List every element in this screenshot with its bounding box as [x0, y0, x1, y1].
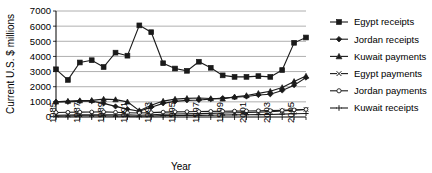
square-marker	[185, 68, 190, 73]
square-marker	[268, 74, 273, 79]
square-marker	[280, 68, 285, 73]
square-marker	[196, 59, 201, 64]
square-marker	[173, 66, 178, 71]
square-marker	[304, 35, 309, 40]
square-marker	[66, 78, 71, 83]
y-tick-label: 6000	[30, 21, 51, 32]
square-marker	[89, 58, 94, 63]
y-tick-label: 5000	[30, 36, 51, 47]
square-marker	[292, 40, 297, 45]
square-marker	[77, 60, 82, 65]
legend-label: Kuwait payments	[354, 51, 427, 62]
square-marker	[54, 67, 59, 72]
square-marker	[101, 65, 106, 70]
square-marker	[113, 50, 118, 55]
square-marker	[208, 65, 213, 70]
y-tick-label: 4000	[30, 51, 51, 62]
square-marker	[137, 23, 142, 28]
square-marker	[125, 53, 130, 58]
square-marker	[232, 74, 237, 79]
y-tick-label: 3000	[30, 66, 51, 77]
square-marker	[256, 74, 261, 79]
square-marker	[337, 20, 342, 25]
y-tick-label: 2000	[30, 81, 51, 92]
square-marker	[244, 74, 249, 79]
legend-label: Egypt payments	[354, 68, 422, 79]
legend-label: Egypt receipts	[354, 16, 414, 27]
x-axis-title: Year	[171, 161, 192, 172]
legend-label: Jordan receipts	[354, 34, 419, 45]
square-marker	[220, 73, 225, 78]
circle-marker	[102, 110, 106, 114]
circle-marker	[292, 108, 296, 112]
legend-label: Jordan payments	[354, 85, 427, 96]
y-axis-title: Current U.S. $ millions	[5, 14, 16, 114]
circle-marker	[304, 108, 308, 112]
square-marker	[161, 61, 166, 66]
legend-label: Kuwait receipts	[354, 102, 419, 113]
line-chart: 01000200030004000500060007000 1985198719…	[0, 0, 432, 173]
y-tick-label: 7000	[30, 5, 51, 16]
chart-figure: 01000200030004000500060007000 1985198719…	[0, 0, 432, 173]
square-marker	[149, 30, 154, 35]
circle-marker	[337, 89, 341, 93]
